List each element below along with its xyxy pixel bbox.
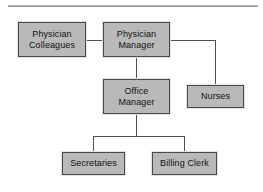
node-label-line1: Physician: [32, 29, 71, 40]
node-billing-clerk[interactable]: Billing Clerk: [152, 152, 217, 175]
top-divider-rule: [8, 5, 258, 7]
node-label-line2: Manager: [118, 97, 154, 108]
node-label-line1: Billing Clerk: [160, 158, 209, 169]
node-nurses[interactable]: Nurses: [187, 85, 244, 108]
node-secretaries[interactable]: Secretaries: [62, 152, 125, 175]
edge-office-manager-drop: [136, 113, 137, 137]
node-label-line1: Office: [125, 86, 149, 97]
edge-bus-to-billing-clerk: [184, 136, 185, 153]
node-label-line2: Manager: [118, 40, 154, 51]
edge-colleagues-to-manager: [86, 40, 104, 41]
node-label-line1: Physician: [117, 29, 156, 40]
edge-manager-to-nurses-vertical: [215, 40, 216, 85]
node-label-line1: Nurses: [201, 91, 230, 102]
edge-manager-to-office-manager: [136, 56, 137, 80]
node-label-line2: Colleagues: [29, 40, 75, 51]
node-label-line1: Secretaries: [70, 158, 117, 169]
node-office-manager[interactable]: Office Manager: [103, 79, 170, 114]
node-physician-colleagues[interactable]: Physician Colleagues: [18, 22, 86, 57]
edge-manager-to-nurses-horizontal: [169, 40, 216, 41]
edge-bus-to-secretaries: [93, 136, 94, 153]
edge-bottom-bus: [93, 136, 185, 137]
org-chart-diagram: Physician Colleagues Physician Manager N…: [0, 0, 263, 192]
node-physician-manager[interactable]: Physician Manager: [103, 22, 170, 57]
